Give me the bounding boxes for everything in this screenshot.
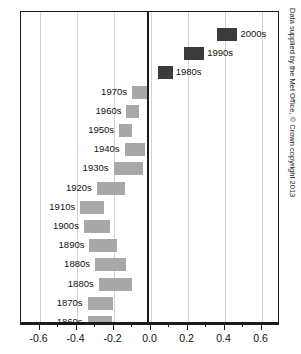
bar-label-1930s-7: 1930s — [83, 161, 109, 174]
bar-1940s-6 — [125, 143, 145, 156]
bar-label-1980s-2: 1980s — [176, 65, 202, 78]
bar-label-1870s-14: 1870s — [57, 296, 83, 309]
bar-1930s-7 — [114, 162, 144, 175]
gridline — [151, 12, 152, 322]
bar-1990s-1 — [184, 47, 204, 60]
bar-2000s-0 — [217, 28, 237, 41]
x-tick-label: -0.4 — [66, 332, 84, 344]
bar-1880s-13 — [99, 278, 132, 291]
x-tick-major — [150, 323, 151, 330]
bar-label-1910s-9: 1910s — [49, 200, 75, 213]
gridline — [40, 12, 41, 322]
bar-label-1900s-10: 1900s — [53, 219, 79, 232]
x-tick-label: 0.6 — [253, 332, 268, 344]
data-credit: Data supplied by the Met Office, © Crown… — [286, 8, 300, 308]
bar-label-1890s-11: 1890s — [59, 238, 85, 251]
x-tick-label: 0.2 — [179, 332, 194, 344]
bar-label-1960s-4: 1960s — [96, 104, 122, 117]
x-tick-major — [261, 323, 262, 330]
bar-label-1970s-3: 1970s — [101, 85, 127, 98]
x-tick-major — [224, 323, 225, 330]
bar-1860s-15 — [88, 316, 112, 322]
bar-label-2000s-0: 2000s — [240, 27, 266, 40]
x-tick-major — [113, 323, 114, 330]
x-tick-minor — [205, 323, 206, 327]
x-tick-major — [187, 323, 188, 330]
bar-label-1950s-5: 1950s — [88, 123, 114, 136]
bar-label-1920s-8: 1920s — [66, 181, 92, 194]
bar-label-1880s-13: 1880s — [68, 277, 94, 290]
x-tick-label: 0.0 — [142, 332, 157, 344]
bar-1950s-5 — [119, 124, 132, 137]
bar-1870s-14 — [88, 297, 114, 310]
bar-1880s-12 — [95, 258, 126, 271]
bar-label-1860s-15: 1860s — [57, 315, 83, 328]
bar-1970s-3 — [132, 86, 147, 99]
data-credit-text: Data supplied by the Met Office, © Crown… — [288, 8, 297, 197]
bar-1910s-9 — [80, 201, 104, 214]
bar-1980s-2 — [158, 66, 173, 79]
bar-1920s-8 — [97, 182, 125, 195]
x-tick-label: -0.2 — [103, 332, 121, 344]
x-tick-minor — [168, 323, 169, 327]
x-tick-minor — [94, 323, 95, 327]
x-tick-minor — [131, 323, 132, 327]
x-tick-label: -0.6 — [29, 332, 47, 344]
bar-1890s-11 — [89, 239, 117, 252]
bar-1900s-10 — [84, 220, 110, 233]
gridline — [262, 12, 263, 322]
bar-1960s-4 — [126, 105, 139, 118]
bar-label-1990s-1: 1990s — [207, 46, 233, 59]
x-tick-minor — [242, 323, 243, 327]
gridline — [77, 12, 78, 322]
x-tick-label: 0.4 — [216, 332, 231, 344]
bar-label-1880s-12: 1880s — [64, 257, 90, 270]
x-tick-major — [39, 323, 40, 330]
bar-label-1940s-6: 1940s — [94, 142, 120, 155]
chart-figure: Uncertainty range Colder than average Wa… — [0, 0, 301, 354]
